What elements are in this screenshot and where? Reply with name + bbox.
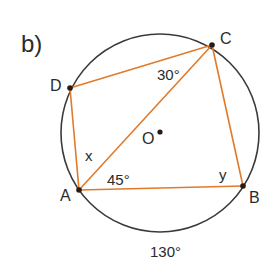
vertex-B-dot [240,183,246,189]
angle-CAB-label: 45° [107,171,130,188]
edge-DC [70,45,212,88]
vertex-A-dot [76,187,82,193]
diagonal-AC [79,45,212,190]
edge-AD [70,88,79,190]
diagram-svg: b) D C A B O 30° 45° x y 130° [0,0,278,274]
inscribed-quadrilateral-diagram: b) D C A B O 30° 45° x y 130° [0,0,278,274]
vertex-A-label: A [60,187,71,204]
angle-DAC-label: x [85,147,93,164]
vertex-C-dot [209,42,215,48]
arc-AB-label: 130° [150,243,181,260]
part-label: b) [21,30,42,57]
vertex-D-label: D [50,77,62,94]
edge-BA [79,186,243,190]
angle-ABC-label: y [219,166,227,183]
center-O-label: O [142,130,154,147]
vertex-B-label: B [249,189,260,206]
center-O-dot [157,129,162,134]
vertex-D-dot [67,85,73,91]
angle-DCA-label: 30° [157,66,180,83]
edge-CB [212,45,243,186]
vertex-C-label: C [220,30,232,47]
